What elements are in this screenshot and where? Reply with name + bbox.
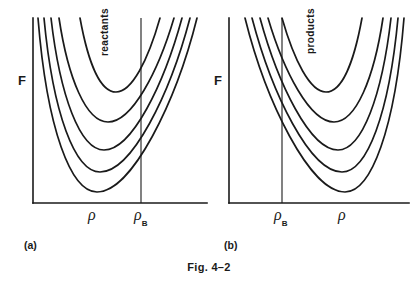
panel-b-curve-2 (268, 18, 383, 122)
panel-b-curve-1 (282, 18, 362, 92)
panel-a-x-label-rho: ρ (88, 207, 96, 226)
panel-a-x-label-rho-b-symbol: ρ (134, 206, 142, 223)
panel-b-curve-family (245, 18, 404, 192)
panel-b-y-axis-label: F (214, 74, 222, 87)
panel-a-tag: (a) (24, 240, 37, 251)
figure-root: F reactants ρ ρB (a) F products ρB ρ (b)… (0, 0, 418, 284)
panel-b-curve-3 (260, 18, 391, 150)
panel-b-x-label-rho-symbol: ρ (338, 206, 346, 223)
panel-b-tag: (b) (224, 240, 237, 251)
panel-b-plot (0, 0, 418, 284)
figure-caption: Fig. 4–2 (0, 262, 418, 273)
panel-b-x-label-rho-b: ρB (274, 207, 287, 226)
panel-a-x-label-rho-symbol: ρ (88, 206, 96, 223)
panel-a-curve-family-label-text: reactants (100, 8, 110, 56)
panel-b-x-label-rho: ρ (338, 207, 346, 226)
panel-a-y-axis-label: F (18, 74, 26, 87)
panel-b-curve-family-label-text: products (306, 8, 316, 54)
panel-b-x-label-rho-b-symbol: ρ (274, 206, 282, 223)
panel-b-x-label-rho-b-subscript: B (282, 219, 288, 228)
panel-a-x-label-rho-b: ρB (134, 207, 147, 226)
panel-a-x-label-rho-b-subscript: B (142, 219, 148, 228)
